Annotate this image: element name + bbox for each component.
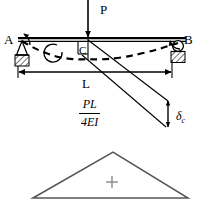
label-support-A: A	[4, 33, 13, 46]
label-deflection-delta-c: δc	[176, 110, 185, 125]
delta-subscript: c	[182, 116, 186, 125]
label-span-L: L	[82, 77, 90, 90]
plus-sign-icon	[106, 176, 118, 188]
fraction-numerator: PL	[79, 97, 100, 112]
figure-canvas: A B C P L PL 4EI δc	[0, 0, 202, 210]
label-midspan-C: C	[79, 45, 86, 56]
moment-diagram-triangle	[33, 152, 188, 198]
label-load-P: P	[100, 3, 107, 16]
beam-member	[18, 38, 186, 41]
fraction-denominator: 4EI	[79, 115, 100, 130]
label-support-B: B	[184, 33, 193, 46]
moment-value-fraction: PL 4EI	[79, 97, 100, 130]
span-dimension-line	[18, 60, 172, 78]
fraction-bar	[79, 113, 100, 114]
diagram-svg	[0, 0, 202, 210]
